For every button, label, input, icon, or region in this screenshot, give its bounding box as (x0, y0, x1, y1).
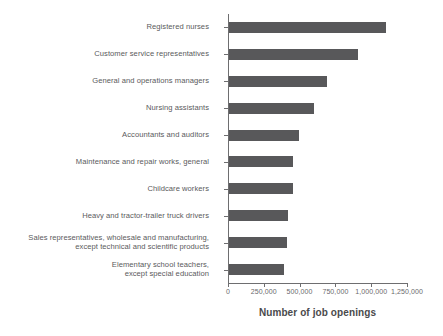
bar-row: Childcare workers (0, 175, 443, 201)
x-axis-tick (300, 283, 301, 287)
bar (229, 76, 327, 87)
category-tick (224, 243, 228, 244)
bar (229, 210, 288, 221)
bar-row: Sales representatives, wholesale and man… (0, 229, 443, 255)
bar (229, 183, 293, 194)
category-tick (224, 270, 228, 271)
x-axis-line (228, 283, 407, 284)
bar-row: Nursing assistants (0, 95, 443, 121)
category-label: Customer service representatives (0, 49, 209, 58)
bar (229, 156, 293, 167)
category-tick (224, 135, 228, 136)
category-tick (224, 216, 228, 217)
x-axis-tick (335, 283, 336, 287)
category-tick (224, 54, 228, 55)
x-axis-tick-label: 1,250,000 (391, 288, 423, 295)
bar (229, 49, 358, 60)
x-axis-tick (264, 283, 265, 287)
x-axis-tick (228, 283, 229, 287)
bar-chart: Registered nursesCustomer service repres… (0, 0, 443, 336)
x-axis-tick (371, 283, 372, 287)
bar (229, 103, 314, 114)
bar-row: Registered nurses (0, 14, 443, 40)
category-tick (224, 27, 228, 28)
x-axis-tick-label: 500,000 (287, 288, 313, 295)
category-tick (224, 108, 228, 109)
bar-row: General and operations managers (0, 68, 443, 94)
category-label: General and operations managers (0, 76, 209, 85)
bar-rows: Registered nursesCustomer service repres… (0, 14, 443, 283)
category-label: Registered nurses (0, 22, 209, 31)
x-axis-tick-label: 250,000 (251, 288, 277, 295)
category-label: Sales representatives, wholesale and man… (0, 233, 209, 252)
category-label: Heavy and tractor-trailer truck drivers (0, 211, 209, 220)
x-axis-tick-label: 750,000 (322, 288, 348, 295)
plot-area: Registered nursesCustomer service repres… (0, 0, 443, 336)
category-label: Elementary school teachers, except speci… (0, 260, 209, 279)
x-axis-title: Number of job openings (228, 307, 407, 318)
category-tick (224, 189, 228, 190)
bar-row: Heavy and tractor-trailer truck drivers (0, 202, 443, 228)
bar-row: Maintenance and repair works, general (0, 149, 443, 175)
bar (229, 130, 299, 141)
bar (229, 237, 287, 248)
category-tick (224, 162, 228, 163)
category-label: Childcare workers (0, 184, 209, 193)
category-label: Nursing assistants (0, 103, 209, 112)
category-label: Accountants and auditors (0, 130, 209, 139)
category-tick (224, 81, 228, 82)
bar-row: Accountants and auditors (0, 122, 443, 148)
category-label: Maintenance and repair works, general (0, 157, 209, 166)
bar-row: Customer service representatives (0, 41, 443, 67)
x-axis-tick-label: 1,000,000 (355, 288, 387, 295)
x-axis-tick (407, 283, 408, 287)
bar (229, 22, 386, 33)
bar (229, 264, 284, 275)
bar-row: Elementary school teachers, except speci… (0, 256, 443, 282)
x-axis-tick-label: 0 (226, 288, 230, 295)
